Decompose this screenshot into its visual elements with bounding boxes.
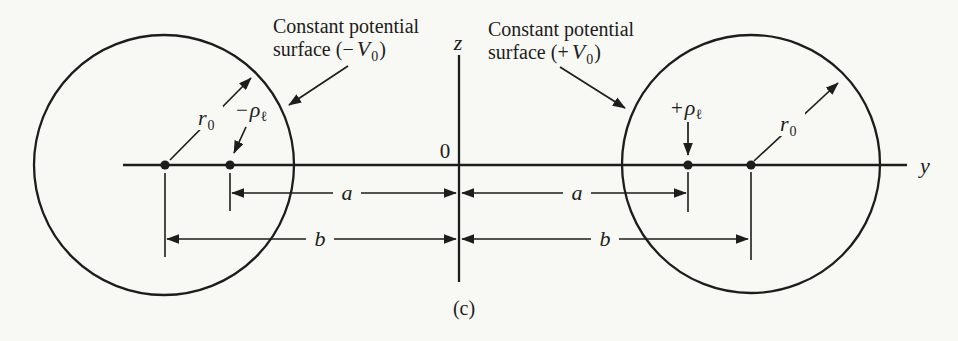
dim-b-right-label: b — [600, 226, 611, 251]
left-charge-label: −ρℓ — [236, 97, 267, 124]
y-axis-label: y — [918, 153, 930, 178]
figure-canvas: Constant potential surface (−V0) Constan… — [0, 0, 958, 341]
dim-a-left-label: a — [342, 180, 353, 205]
figure-caption: (c) — [453, 297, 475, 320]
left-annotation-line2: surface (−V0) — [273, 36, 386, 64]
origin-label: 0 — [440, 139, 451, 163]
left-center-dot — [160, 160, 169, 169]
right-charge-dot — [683, 160, 692, 169]
right-annotation-line2: surface (+V0) — [488, 39, 601, 67]
right-center-dot — [746, 160, 755, 169]
figure: Constant potential surface (−V0) Constan… — [0, 0, 958, 341]
right-annotation-line1: Constant potential — [488, 18, 635, 41]
dim-a-right-label: a — [572, 180, 583, 205]
left-annotation-arrow — [289, 66, 348, 105]
left-charge-dot — [225, 160, 234, 169]
left-charge-arrow — [234, 127, 246, 153]
z-axis-label: z — [453, 30, 463, 55]
right-charge-label: +ρℓ — [671, 95, 702, 122]
dim-b-left-label: b — [315, 226, 326, 251]
right-annotation-arrow — [560, 67, 625, 108]
left-annotation-line1: Constant potential — [273, 15, 420, 38]
